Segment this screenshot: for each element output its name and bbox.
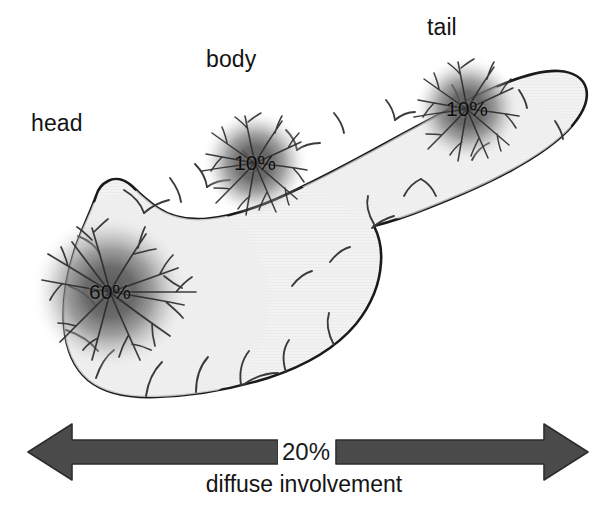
lesion-value-tail: 10% [446, 97, 488, 121]
region-label-body: body [206, 46, 256, 73]
lesion-value-body: 10% [234, 151, 276, 175]
region-label-head: head [31, 110, 83, 137]
diffuse-involvement-caption: diffuse involvement [206, 471, 402, 498]
diffuse-involvement-value: 20% [278, 438, 334, 466]
region-label-tail: tail [427, 14, 457, 41]
lesion-value-head: 60% [89, 280, 131, 304]
